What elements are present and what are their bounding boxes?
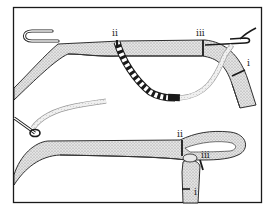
label-i-bottom: i bbox=[194, 187, 197, 197]
marker-iii-bottom bbox=[200, 160, 203, 170]
label-i-top: i bbox=[247, 58, 250, 68]
label-iii-bottom: iii bbox=[201, 150, 210, 160]
bottom-splice-stage: ii iii i bbox=[14, 101, 246, 203]
fid-hook-icon bbox=[25, 31, 59, 41]
label-ii-top: ii bbox=[112, 28, 118, 38]
figure-frame bbox=[14, 8, 262, 203]
top-splice-stage: ii iii i bbox=[14, 28, 256, 108]
standing-part-rope bbox=[182, 160, 200, 203]
bottom-main-rope bbox=[14, 131, 246, 185]
label-iii-top: iii bbox=[196, 28, 205, 38]
label-ii-bottom: ii bbox=[177, 129, 183, 139]
splice-diagram: ii iii i ii iii i bbox=[0, 0, 275, 217]
